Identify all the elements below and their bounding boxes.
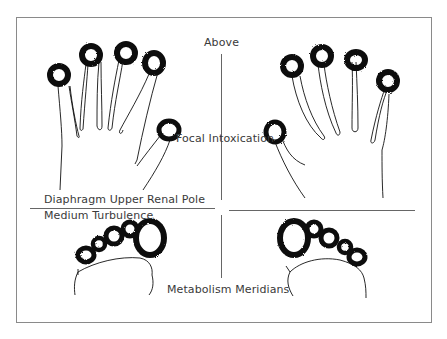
right-hand-outline <box>275 62 389 198</box>
toe-marker-3 <box>106 228 122 244</box>
frame-border <box>17 18 432 323</box>
fingertip-marker-4 <box>379 72 397 90</box>
fingertip-marker-4 <box>145 53 163 73</box>
label-diaphragm-upper-renal-pole: Diaphragm Upper Renal Pole <box>44 194 205 206</box>
toe-marker-big <box>136 221 164 255</box>
label-focal-intoxication: Focal Intoxication <box>176 133 274 145</box>
fingertip-marker-3 <box>347 52 365 68</box>
right-foot-toe-markers <box>280 221 365 264</box>
label-medium-turbulence: Medium Turbulence <box>44 210 153 222</box>
left-hand-outline <box>58 60 170 190</box>
toe-marker-4 <box>93 238 105 250</box>
toe-marker-big <box>280 221 308 255</box>
fingertip-marker-3 <box>117 44 135 62</box>
fingertip-marker-1 <box>50 66 68 84</box>
toe-marker-5 <box>349 250 365 264</box>
fingertip-marker-2 <box>82 46 100 64</box>
diagram-canvas: Above Focal Intoxication Diaphragm Upper… <box>0 0 447 339</box>
toe-marker-3 <box>321 230 337 246</box>
left-foot-toe-markers <box>78 221 164 262</box>
left-hand-fingertip-markers <box>50 44 179 139</box>
toe-marker-5 <box>78 248 94 262</box>
label-metabolism-meridians: Metabolism Meridians <box>167 284 289 296</box>
label-above: Above <box>204 37 239 49</box>
toe-marker-2 <box>307 222 321 236</box>
fingertip-marker-2 <box>313 47 331 65</box>
fingertip-marker-1 <box>283 57 301 75</box>
